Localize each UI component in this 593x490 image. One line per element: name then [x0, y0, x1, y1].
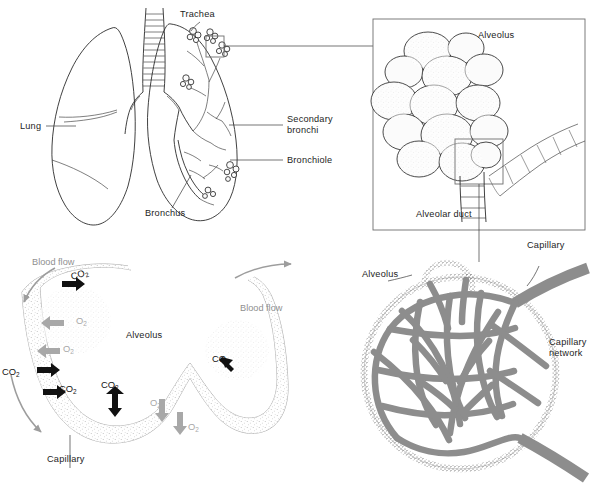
- label-capillary-network-2: network: [549, 348, 583, 358]
- gas-label-co2-bottom-up: CO2: [101, 379, 119, 391]
- label-blood-flow-right: Blood flow: [240, 303, 283, 313]
- label-alveolar-duct: Alveolar duct: [416, 209, 472, 219]
- trachea-illustration: [125, 8, 179, 134]
- label-lung: Lung: [20, 121, 41, 131]
- bronchial-tree: [174, 34, 231, 205]
- label-bronchiole: Bronchiole: [287, 155, 332, 165]
- label-alveolus-network: Alveolus: [362, 269, 399, 279]
- alveolar-sac-illustration: [371, 32, 508, 181]
- capillary-vessel-outflow: [520, 438, 586, 478]
- gas-label-o2-lower-1: O2: [150, 397, 161, 409]
- label-blood-flow-left: Blood flow: [32, 257, 75, 267]
- label-alveolus-cluster: Alveolus: [478, 30, 515, 40]
- blood-flow-arrow-left-lower: [11, 375, 41, 432]
- bronchus-leader: [172, 175, 191, 208]
- alveolus-cluster-panel: Alveolus Alveolar duct: [371, 19, 585, 262]
- figure-canvas: Trachea Lung Secondary bronchi Bronchiol…: [0, 0, 593, 490]
- capillary-right-stipple: [248, 277, 272, 297]
- label-capillary-network-top: Capillary: [527, 240, 565, 250]
- o2-arrow-down-2: [173, 412, 187, 435]
- capillary-vessel-inflow: [515, 268, 588, 303]
- gas-exchange-panel: CO2 O2 O2 CO2 CO2 CO2 CO2 O2: [2, 257, 291, 468]
- label-capillary-network-1: Capillary: [549, 337, 587, 347]
- label-alveolus-gas-exchange: Alveolus: [126, 330, 163, 340]
- alveolus-gas-cloud-right: [205, 320, 269, 380]
- alveolar-cluster: [180, 75, 193, 90]
- alveolar-cluster: [203, 187, 216, 198]
- label-secondary-bronchi-2: bronchi: [287, 125, 319, 135]
- capillary-leader: [527, 266, 539, 286]
- lung-panel: Trachea Lung Secondary bronchi Bronchiol…: [20, 8, 373, 225]
- gas-label-o2-lower-2: O2: [188, 421, 199, 433]
- label-capillary-gas-exchange: Capillary: [47, 454, 85, 464]
- label-bronchus: Bronchus: [145, 208, 186, 218]
- gas-label-co2-left-lower: CO2: [59, 383, 77, 395]
- alveolar-cluster: [216, 42, 229, 57]
- gas-label-co2-left-upper: CO2: [2, 366, 20, 378]
- blood-flow-arrow-right: [235, 264, 291, 278]
- label-secondary-bronchi-1: Secondary: [287, 114, 333, 124]
- capillary-network-panel: Alveolus Capillary Capillary network: [362, 240, 588, 478]
- label-trachea: Trachea: [180, 9, 215, 19]
- anatomy-figure: Trachea Lung Secondary bronchi Bronchiol…: [0, 0, 593, 490]
